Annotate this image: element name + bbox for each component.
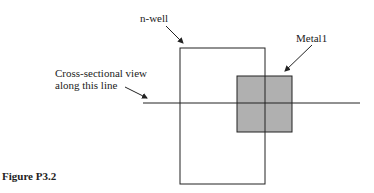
metal1-label: Metal1 [296, 32, 327, 44]
figure-caption: Figure P3.2 [2, 170, 56, 182]
cross-section-arrow [125, 87, 147, 98]
metal1-arrow [285, 45, 312, 71]
cross-section-label-line1: Cross-sectional view [55, 67, 147, 79]
nwell-arrow [166, 26, 183, 43]
layout-diagram [0, 0, 374, 193]
nwell-label: n-well [140, 12, 168, 24]
cross-section-label-line2: along this line [55, 79, 117, 91]
